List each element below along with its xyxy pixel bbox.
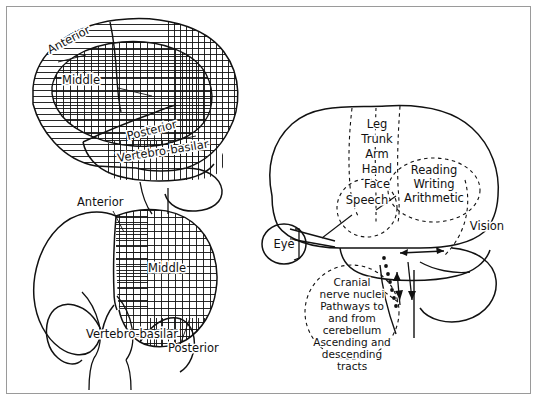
callout-line-6: Ascending and [313, 336, 391, 348]
callout-line-4: and from [328, 312, 376, 324]
coronal-brain-panel: Anterior Middle Vertebro-basilar Posteri… [34, 195, 230, 390]
callout-line-3: Pathways to [320, 300, 384, 312]
coronal-label-middle: Middle [148, 261, 186, 275]
motor-label-trunk: Trunk [360, 132, 393, 146]
coronal-label-anterior: Anterior [77, 195, 124, 209]
brainstem-callout-labels: Cranial nerve nuclei Pathways to and fro… [313, 276, 391, 372]
motor-strip-right-boundary [398, 106, 400, 222]
coronal-label-vertebrobasilar: Vertebro-basilar [86, 327, 178, 341]
coronal-label-posterior: Posterior [168, 341, 219, 355]
motor-label-face: Face [364, 177, 390, 191]
callout-line-1: Cranial [333, 276, 370, 288]
coronal-cord-right [126, 360, 131, 390]
coronal-midbrain-left [82, 292, 100, 358]
tract-arrows [393, 247, 444, 305]
function-eye-stalk [294, 229, 299, 260]
function-optic-nerve-upper [290, 229, 335, 241]
lateral-brain-panel: Anterior Middle Posterior Vertebro-basil… [25, 12, 248, 214]
parietal-label-arithmetic: Arithmetic [404, 191, 464, 205]
speech-leader-line [322, 215, 352, 238]
parietal-labels: Reading Writing Arithmetic [404, 163, 464, 205]
figure-root: Anterior Middle Posterior Vertebro-basil… [0, 0, 539, 402]
callout-line-2: nerve nuclei [320, 288, 385, 300]
lateral-label-middle: Middle [62, 73, 100, 87]
callout-line-5: cerebellum [323, 324, 382, 336]
function-cerebellum-inner [420, 262, 470, 273]
diagram-canvas: Anterior Middle Posterior Vertebro-basil… [0, 0, 539, 402]
callout-line-8: tracts [337, 360, 367, 372]
lateral-label-middle-group: Middle [62, 73, 100, 87]
callout-line-7: descending [322, 348, 382, 360]
coronal-cord-left [89, 358, 94, 390]
motor-label-hand: Hand [362, 162, 392, 176]
motor-strip-labels: Leg Trunk Arm Hand Face [360, 117, 393, 191]
parietal-label-writing: Writing [413, 177, 454, 191]
speech-label: Speech [346, 193, 388, 207]
function-cerebellum [420, 248, 496, 322]
vision-label: Vision [470, 219, 504, 233]
parietal-label-reading: Reading [411, 163, 458, 177]
motor-label-arm: Arm [365, 147, 389, 161]
eye-label: Eye [273, 237, 294, 251]
motor-label-leg: Leg [367, 117, 388, 131]
function-brain-panel: Leg Trunk Arm Hand Face Speech Reading W… [262, 106, 504, 372]
